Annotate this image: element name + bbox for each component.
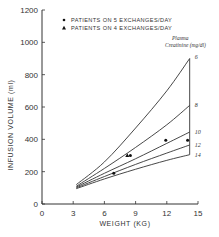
curve-creatinine-8 [76, 105, 189, 186]
infusion-volume-chart: 02004006008001000120003691215 68101214 P… [0, 0, 219, 237]
curve-label: 14 [195, 152, 201, 158]
x-tick-label: 6 [102, 209, 107, 218]
creatinine-curves: 68101214 [76, 54, 200, 189]
y-tick-label: 400 [25, 135, 39, 144]
curve-creatinine-12 [76, 145, 189, 188]
curve-label: 12 [195, 142, 201, 148]
y-tick-label: 1000 [20, 38, 38, 47]
y-tick-label: 1200 [20, 6, 38, 15]
circle-point [112, 172, 115, 175]
curve-label: 10 [195, 129, 201, 135]
circle-point [186, 139, 189, 142]
legend: PATIENTS ON 5 EXCHANGES/DAYPATIENTS ON 4… [62, 17, 206, 49]
circle-point [129, 154, 132, 157]
y-tick-label: 0 [34, 200, 39, 209]
axis-titles: WEIGHT (KG)INFUSION VOLUME (ml) [7, 80, 151, 228]
y-axis-title: INFUSION VOLUME (ml) [7, 80, 15, 171]
x-tick-label: 3 [71, 209, 76, 218]
annotation-line1: Plasma [171, 35, 189, 41]
y-tick-label: 800 [25, 71, 39, 80]
curve-label: 8 [195, 102, 198, 108]
y-tick-label: 200 [25, 168, 39, 177]
curve-label: 6 [195, 54, 198, 60]
legend-circle-icon [63, 19, 66, 22]
legend-label: PATIENTS ON 4 EXCHANGES/DAY [71, 25, 172, 31]
x-axis-title: WEIGHT (KG) [99, 220, 150, 228]
x-tick-label: 9 [133, 209, 138, 218]
x-tick-label: 15 [194, 209, 203, 218]
annotation-line2: Creatinine (mg/dl) [165, 42, 206, 49]
x-tick-label: 0 [40, 209, 45, 218]
circle-point [164, 139, 167, 142]
curve-creatinine-10 [76, 132, 189, 187]
legend-triangle-icon [62, 26, 66, 30]
x-tick-label: 12 [162, 209, 171, 218]
y-tick-label: 600 [25, 103, 39, 112]
legend-label: PATIENTS ON 5 EXCHANGES/DAY [71, 17, 172, 23]
